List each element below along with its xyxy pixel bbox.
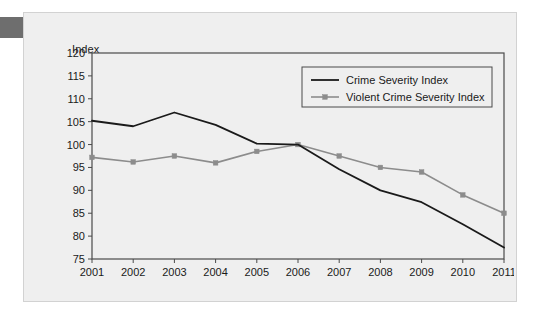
series-marker [90, 155, 95, 160]
y-axis-tick-label: 80 [73, 230, 85, 242]
plot-area: 7580859095100105110115120200120022003200… [54, 45, 514, 295]
legend-item-label: Crime Severity Index [346, 74, 449, 86]
legend-item-label: Violent Crime Severity Index [346, 91, 485, 103]
x-axis-tick-label: 2011 [492, 266, 514, 278]
x-axis-tick-label: 2004 [203, 266, 227, 278]
y-axis-tick-label: 85 [73, 207, 85, 219]
y-axis-tick-label: 105 [67, 116, 85, 128]
x-axis-tick-label: 2010 [451, 266, 475, 278]
x-axis-tick-label: 2009 [409, 266, 433, 278]
y-axis-tick-label: 90 [73, 184, 85, 196]
series-marker [255, 149, 260, 154]
y-axis-tick-label: 110 [67, 93, 85, 105]
chart-panel: Index 7580859095100105110115120200120022… [23, 12, 517, 302]
x-axis-tick-label: 2003 [162, 266, 186, 278]
series-marker [461, 193, 466, 198]
series-marker [419, 170, 424, 175]
series-marker [131, 160, 136, 165]
series-marker [337, 154, 342, 159]
y-axis-tick-label: 95 [73, 161, 85, 173]
line-chart: 7580859095100105110115120200120022003200… [54, 45, 514, 295]
x-axis-tick-label: 2006 [286, 266, 310, 278]
series-marker [213, 161, 218, 166]
y-axis-tick-label: 120 [67, 47, 85, 59]
x-axis-tick-label: 2002 [121, 266, 145, 278]
series-marker [172, 154, 177, 159]
series-marker [502, 211, 507, 216]
series-line [92, 113, 504, 248]
x-axis-tick-label: 2007 [327, 266, 351, 278]
y-axis-tick-label: 115 [67, 70, 85, 82]
x-axis-tick-label: 2008 [368, 266, 392, 278]
series-marker [378, 165, 383, 170]
legend-swatch-marker [323, 95, 328, 100]
series-line [92, 145, 504, 214]
y-axis-tick-label: 100 [67, 139, 85, 151]
y-axis-tick-label: 75 [73, 253, 85, 265]
x-axis-tick-label: 2005 [245, 266, 269, 278]
x-axis-tick-label: 2001 [80, 266, 104, 278]
